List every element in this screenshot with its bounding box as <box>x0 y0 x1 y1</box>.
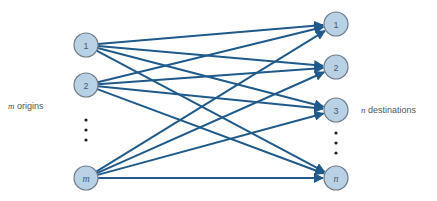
destination-node-d1: 1 <box>324 12 348 36</box>
ellipsis-dots-group <box>84 118 337 154</box>
node-label: 1 <box>83 41 88 51</box>
node-label: n <box>334 173 339 184</box>
origins-text: origins <box>15 101 44 111</box>
edge-o1-dn <box>97 51 325 172</box>
destination-node-d2: 2 <box>324 55 348 79</box>
destination-node-d3: 3 <box>324 98 348 122</box>
origin-node-om: m <box>74 166 98 190</box>
origins-label: m origins <box>8 101 44 111</box>
destinations-ellipsis-dot-2 <box>334 151 337 154</box>
origins-ellipsis-dot-1 <box>84 128 87 131</box>
destinations-ellipsis-dot-0 <box>334 131 337 134</box>
node-label: 1 <box>333 20 338 30</box>
destination-node-dn: n <box>324 166 348 190</box>
origins-ellipsis-dot-0 <box>84 118 87 121</box>
node-label: m <box>82 173 89 184</box>
origins-ellipsis-dot-2 <box>84 138 87 141</box>
origin-node-o2: 2 <box>74 73 98 97</box>
transportation-network-diagram: 12m123n <box>0 0 437 201</box>
node-label: 3 <box>333 106 338 116</box>
node-label: 2 <box>333 63 338 73</box>
edges-group <box>96 25 325 178</box>
origin-node-o1: 1 <box>74 33 98 57</box>
destinations-ellipsis-dot-1 <box>334 141 337 144</box>
destinations-text: destinations <box>366 105 417 115</box>
destinations-label: n destinations <box>361 105 416 115</box>
node-label: 2 <box>83 81 88 91</box>
